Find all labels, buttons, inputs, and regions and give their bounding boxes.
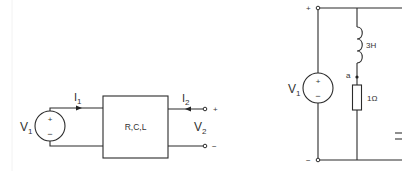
top-node-sign: + [306,4,311,13]
node-a-dot [355,75,358,78]
resistor-icon [353,85,362,110]
network-label: R,C,L [125,122,147,132]
output-voltage-label-v2: V2 [194,120,207,136]
terminal-plus-sign: + [213,105,218,114]
voltage-source-v1: + − [35,111,65,141]
input-wire-bottom [50,141,103,146]
rl-circuit: + − + − V1 3H a 1Ω [288,4,402,165]
top-node [316,6,320,10]
current-arrow-i1-icon [76,106,82,111]
circuit-diagram: + − V1 I1 R,C,L + − I2 V2 + − [0,0,402,171]
voltage-source-v1: + − [303,73,333,103]
source-plus-sign: + [48,115,53,124]
output-terminal-minus [203,144,207,148]
inductor-coil-icon [357,27,362,63]
source-label-v1: V1 [288,82,301,98]
node-a-label: a [346,71,351,80]
resistor-label: 1Ω [367,94,377,103]
source-minus-sign: − [315,91,320,101]
inductor-label: 3H [366,41,376,50]
source-minus-sign: − [47,129,52,139]
two-port-circuit: + − V1 I1 R,C,L + − I2 V2 [20,91,218,158]
source-label-v1: V1 [20,120,33,136]
output-terminal-plus [203,107,207,111]
terminal-minus-sign: − [212,142,217,151]
bottom-node [316,158,320,162]
current-label-i2: I2 [182,92,190,107]
current-label-i1: I1 [74,91,82,106]
current-arrow-i2-icon [185,107,191,112]
bottom-node-sign: − [306,156,311,165]
source-plus-sign: + [316,77,321,86]
